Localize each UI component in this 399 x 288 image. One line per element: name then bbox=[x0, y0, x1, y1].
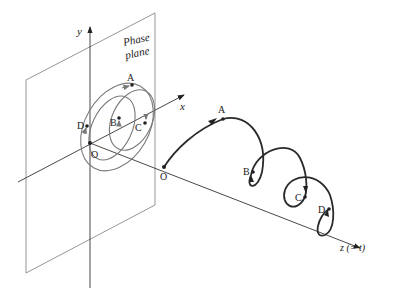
label-D-plane: D bbox=[77, 120, 84, 131]
phase-plane-diagram: y x z (= t) Phase plane O A B C D O A B … bbox=[0, 0, 399, 288]
point-origin-z bbox=[162, 165, 166, 169]
point-B-z bbox=[251, 170, 255, 174]
x-axis-label: x bbox=[179, 100, 185, 112]
point-A-plane bbox=[130, 83, 134, 87]
point-D-plane bbox=[85, 124, 89, 128]
point-C-plane bbox=[143, 121, 147, 125]
label-C-plane: C bbox=[135, 122, 142, 133]
point-A-z bbox=[221, 117, 225, 121]
trajectory-points bbox=[162, 117, 331, 211]
trajectory-arrows bbox=[208, 118, 329, 217]
label-D-z: D bbox=[318, 204, 325, 215]
z-axis-label: z (= t) bbox=[339, 242, 366, 254]
point-D-z bbox=[327, 207, 331, 211]
y-axis-label: y bbox=[76, 25, 82, 37]
label-A-z: A bbox=[218, 104, 226, 115]
label-B-plane: B bbox=[110, 117, 117, 128]
z-axis bbox=[90, 143, 360, 248]
point-B-plane bbox=[117, 116, 121, 120]
label-C-z: C bbox=[295, 192, 302, 203]
point-origin-plane bbox=[88, 141, 92, 145]
label-B-z: B bbox=[243, 166, 250, 177]
label-origin-plane: O bbox=[91, 149, 98, 160]
point-C-z bbox=[303, 195, 307, 199]
phase-plane-points bbox=[85, 83, 147, 145]
label-A-plane: A bbox=[127, 72, 135, 83]
label-origin-z: O bbox=[160, 171, 167, 182]
